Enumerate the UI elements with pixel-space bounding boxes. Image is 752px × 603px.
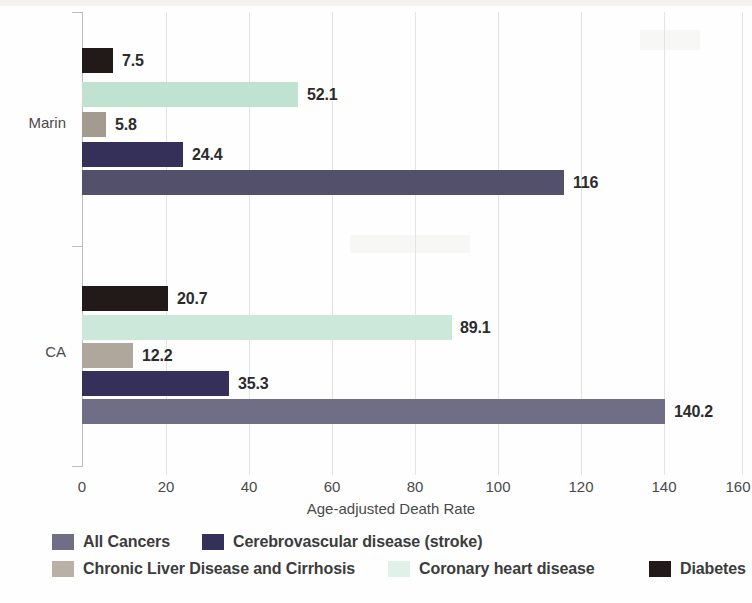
x-tick-100: 100	[485, 478, 510, 495]
legend-row-2: Chronic Liver Disease and Cirrhosis Coro…	[52, 560, 752, 587]
bar-value-ca-cancers: 140.2	[674, 399, 713, 424]
y-axis-tick-mid	[72, 246, 82, 247]
x-tick-0: 0	[78, 478, 86, 495]
legend-swatch-icon-stroke	[202, 534, 224, 550]
x-tick-120: 120	[568, 478, 593, 495]
bar-value-marin-stroke: 24.4	[192, 142, 222, 167]
scan-artifact	[350, 235, 470, 253]
x-tick-160: 160	[725, 478, 750, 495]
x-tick-20: 20	[158, 478, 175, 495]
legend-item-liver[interactable]: Chronic Liver Disease and Cirrhosis	[52, 560, 355, 578]
bar-marin-cancers	[82, 170, 564, 195]
bar-value-marin-cancers: 116	[573, 170, 598, 195]
x-tick-80: 80	[407, 478, 424, 495]
bar-value-ca-coronary: 89.1	[460, 315, 490, 340]
legend-swatch-icon-coronary	[388, 561, 410, 577]
x-tick-140: 140	[651, 478, 676, 495]
bar-ca-coronary	[82, 315, 452, 340]
bar-ca-stroke	[82, 371, 229, 396]
x-axis-title-text: Age-adjusted Death Rate	[277, 500, 475, 517]
bar-ca-diabetes	[82, 286, 168, 311]
legend: All Cancers Cerebrovascular disease (str…	[52, 533, 752, 587]
bar-value-ca-stroke: 35.3	[238, 371, 268, 396]
group-label-marin: Marin	[4, 114, 66, 131]
bar-marin-diabetes	[82, 48, 113, 73]
scan-artifact	[640, 30, 700, 50]
bar-marin-coronary	[82, 82, 298, 107]
bar-value-ca-liver: 12.2	[142, 343, 172, 368]
legend-swatch-icon-all-cancers	[52, 534, 74, 550]
legend-item-coronary[interactable]: Coronary heart disease	[388, 560, 595, 578]
gridline-160	[742, 12, 743, 475]
legend-label-diabetes: Diabetes	[680, 560, 746, 578]
legend-swatch-icon-diabetes	[649, 561, 671, 577]
legend-item-diabetes[interactable]: Diabetes	[649, 560, 746, 578]
x-axis-title: Age-adjusted Death Rate	[0, 500, 752, 517]
legend-label-liver: Chronic Liver Disease and Cirrhosis	[83, 560, 355, 578]
bar-value-marin-coronary: 52.1	[307, 82, 337, 107]
bar-marin-liver	[82, 112, 106, 137]
bar-chart: Marin 7.5 52.1 5.8 24.4 116 CA 20.7 89.1…	[0, 0, 752, 603]
bar-value-marin-diabetes: 7.5	[122, 48, 144, 73]
bar-ca-cancers	[82, 399, 665, 424]
legend-item-stroke[interactable]: Cerebrovascular disease (stroke)	[202, 533, 482, 551]
scan-artifact	[0, 0, 752, 6]
bar-value-marin-liver: 5.8	[115, 112, 137, 137]
bar-value-ca-diabetes: 20.7	[177, 286, 207, 311]
legend-swatch-icon-liver	[52, 561, 74, 577]
bar-marin-stroke	[82, 142, 183, 167]
legend-item-all-cancers[interactable]: All Cancers	[52, 533, 170, 551]
legend-label-stroke: Cerebrovascular disease (stroke)	[233, 533, 482, 551]
x-tick-60: 60	[324, 478, 341, 495]
group-label-ca: CA	[4, 343, 66, 360]
bar-ca-liver	[82, 343, 133, 368]
y-axis-tick-top	[72, 12, 82, 13]
legend-label-all-cancers: All Cancers	[83, 533, 170, 551]
legend-label-coronary: Coronary heart disease	[419, 560, 595, 578]
legend-row-1: All Cancers Cerebrovascular disease (str…	[52, 533, 752, 560]
y-axis-tick-bottom	[72, 466, 82, 467]
x-tick-40: 40	[241, 478, 258, 495]
